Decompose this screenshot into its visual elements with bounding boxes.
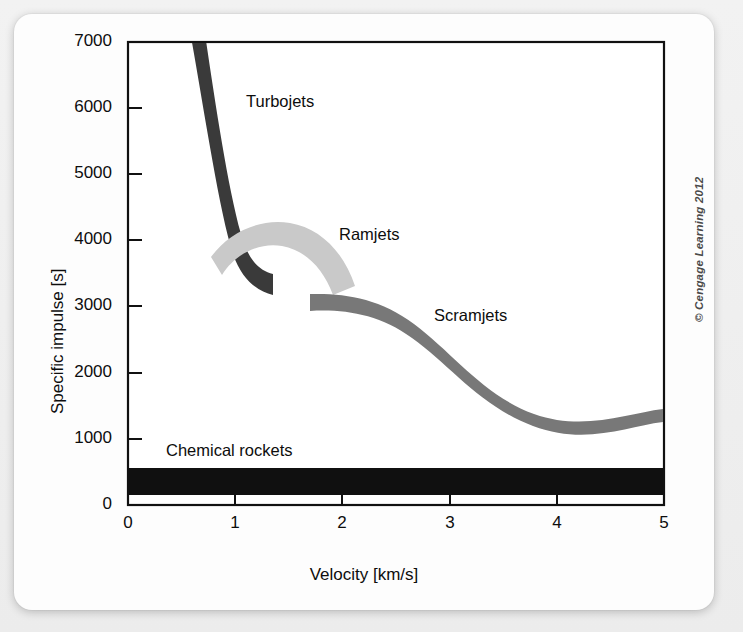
- annotation-chemical-rockets: Chemical rockets: [166, 441, 293, 460]
- x-tick-label-4: 4: [537, 513, 577, 533]
- figure-page: 7000 6000 5000 4000 3000 2000 1000 0 0 1…: [0, 0, 743, 632]
- copyright-notice: © Cengage Learning 2012: [693, 177, 705, 322]
- figure-card: 7000 6000 5000 4000 3000 2000 1000 0 0 1…: [14, 14, 714, 610]
- y-tick-label-5000: 5000: [34, 163, 112, 183]
- y-tick-label-0: 0: [34, 494, 112, 514]
- y-tick-label-3000: 3000: [34, 295, 112, 315]
- y-tick-label-7000: 7000: [34, 31, 112, 51]
- x-tick-label-3: 3: [430, 513, 470, 533]
- x-axis-title: Velocity [km/s]: [14, 565, 714, 585]
- y-tick-label-1000: 1000: [34, 428, 112, 448]
- x-tick-label-2: 2: [322, 513, 362, 533]
- y-tick-label-6000: 6000: [34, 97, 112, 117]
- x-tick-label-0: 0: [108, 513, 148, 533]
- annotation-ramjets: Ramjets: [339, 225, 400, 244]
- x-tick-label-1: 1: [215, 513, 255, 533]
- y-axis-title: Specific impulse [s]: [48, 269, 68, 415]
- band-chemical-rockets: [128, 468, 664, 495]
- annotation-scramjets: Scramjets: [434, 306, 507, 325]
- y-tick-label-2000: 2000: [34, 362, 112, 382]
- chart-figure: 7000 6000 5000 4000 3000 2000 1000 0 0 1…: [14, 14, 714, 610]
- annotation-turbojets: Turbojets: [246, 92, 314, 111]
- y-tick-label-4000: 4000: [34, 229, 112, 249]
- x-tick-label-5: 5: [644, 513, 684, 533]
